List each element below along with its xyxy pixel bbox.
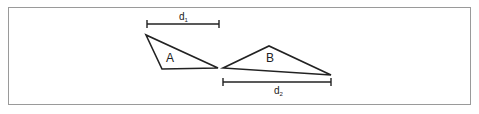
svg-text:d1: d1: [179, 11, 189, 23]
triangle-b-label: B: [266, 51, 274, 65]
d1-subscript: 1: [185, 17, 189, 23]
d2-subscript: 2: [280, 91, 284, 97]
dimension-d1: d1: [147, 11, 219, 28]
diagram-canvas: A B d1 d2: [0, 0, 479, 114]
svg-text:d2: d2: [274, 85, 284, 97]
dimension-d2: d2: [223, 78, 331, 97]
triangle-a: [146, 35, 218, 69]
triangle-a-label: A: [166, 51, 174, 65]
triangle-b: [223, 46, 331, 75]
